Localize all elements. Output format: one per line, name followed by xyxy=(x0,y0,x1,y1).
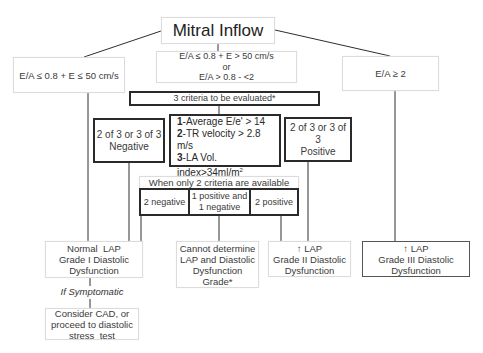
two-positive-box: 2 positive xyxy=(249,188,299,216)
two-criteria-header-label: When only 2 criteria are available xyxy=(149,177,289,188)
outcome-grade3-line1: ↑ LAP xyxy=(403,243,428,254)
mitral-inflow-label: Mitral Inflow xyxy=(173,25,264,36)
outcome-cannot-line3: Dysfunction xyxy=(193,265,243,276)
branch-left-label: E/A ≤ 0.8 + E ≤ 50 cm/s xyxy=(19,70,118,81)
outcome-grade2-line1: ↑ LAP xyxy=(297,243,322,254)
one-pos-one-neg-line2: 1 negative xyxy=(199,202,241,213)
branch-right-label: E/A ≥ 2 xyxy=(375,68,406,79)
branch-center-box: E/A ≤ 0.8 + E > 50 cm/s or E/A > 0.8 - <… xyxy=(156,51,297,83)
branch-center-line2: or xyxy=(222,62,230,73)
negative-box: 2 of 3 or 3 of 3 Negative xyxy=(93,118,165,163)
if-symptomatic-label: If Symptomatic xyxy=(57,286,127,297)
one-pos-one-neg-box: 1 positive and 1 negative xyxy=(188,188,251,216)
outcome-normal-box: Normal LAP Grade I Diastolic Dysfunction xyxy=(45,241,143,278)
outcome-cannot-line1: Cannot determine xyxy=(180,243,256,254)
outcome-grade2-box: ↑ LAP Grade II Diastolic Dysfunction xyxy=(268,241,351,277)
outcome-cannot-line2: LAP and Diastolic xyxy=(180,254,255,265)
outcome-normal-line3: Dysfunction xyxy=(69,265,119,276)
positive-line1: 2 of 3 or 3 of 3 xyxy=(286,122,350,146)
branch-center-line3: E/A > 0.8 - <2 xyxy=(199,72,254,83)
positive-line2: Positive xyxy=(300,146,335,158)
one-pos-one-neg-line1: 1 positive and xyxy=(192,191,248,202)
two-negative-label: 2 negative xyxy=(144,197,186,208)
criteria-header-box: 3 criteria to be evaluated* xyxy=(129,91,320,106)
outcome-grade3-line2: Grade III Diastolic xyxy=(378,254,454,265)
mitral-inflow-box: Mitral Inflow xyxy=(161,17,275,44)
outcome-normal-line2: Grade I Diastolic xyxy=(59,254,129,265)
outcome-cannot-box: Cannot determine LAP and Diastolic Dysfu… xyxy=(176,241,259,288)
followup-line1: Consider CAD, or xyxy=(55,308,129,319)
two-positive-label: 2 positive xyxy=(255,197,293,208)
followup-line2: proceed to diastolic xyxy=(51,319,133,330)
outcome-normal-line1: Normal LAP xyxy=(67,243,121,254)
outcome-cannot-line4: Grade* xyxy=(202,276,232,287)
followup-box: Consider CAD, or proceed to diastolic st… xyxy=(45,308,139,340)
outcome-grade3-line3: Dysfunction xyxy=(391,265,441,276)
criteria-header-label: 3 criteria to be evaluated* xyxy=(173,93,275,104)
criterion-1: 1-Average E/e' > 14 xyxy=(177,116,265,128)
outcome-grade2-line2: Grade II Diastolic xyxy=(273,254,346,265)
outcome-grade3-box: ↑ LAP Grade III Diastolic Dysfunction xyxy=(362,241,470,277)
branch-left-box: E/A ≤ 0.8 + E ≤ 50 cm/s xyxy=(13,57,125,93)
criterion-2: 2-TR velocity > 2.8 m/s xyxy=(177,128,279,152)
branch-right-box: E/A ≥ 2 xyxy=(342,56,439,91)
outcome-grade2-line3: Dysfunction xyxy=(285,265,335,276)
negative-line1: 2 of 3 or 3 of 3 xyxy=(97,129,162,141)
negative-line2: Negative xyxy=(109,141,148,153)
criteria-list-box: 1-Average E/e' > 14 2-TR velocity > 2.8 … xyxy=(169,114,281,167)
branch-center-line1: E/A ≤ 0.8 + E > 50 cm/s xyxy=(179,51,274,62)
two-negative-box: 2 negative xyxy=(139,188,190,216)
positive-box: 2 of 3 or 3 of 3 Positive xyxy=(284,117,352,162)
followup-line3: stress test xyxy=(69,330,115,341)
